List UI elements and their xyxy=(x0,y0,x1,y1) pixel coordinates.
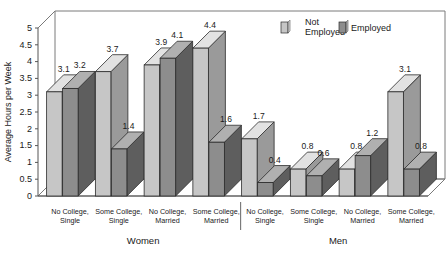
y-tick-label: 0.5 xyxy=(19,174,32,184)
y-axis: 00.511.522.533.544.55 xyxy=(19,23,38,201)
category-label: Single xyxy=(304,216,324,225)
bar-value-label: 3.9 xyxy=(155,37,167,47)
bar-value-label: 4.4 xyxy=(204,20,216,30)
y-tick-label: 4.5 xyxy=(19,40,32,50)
category-label: No College, xyxy=(246,207,284,216)
category-label: Some College, xyxy=(95,207,142,216)
category-label: No College, xyxy=(344,207,382,216)
bar-value-label: 0.6 xyxy=(318,148,330,158)
bar-employed xyxy=(63,71,96,196)
bar-value-label: 1.2 xyxy=(366,128,378,138)
bar-value-label: 0.8 xyxy=(302,141,314,151)
bars-layer xyxy=(47,31,437,196)
y-tick-label: 4 xyxy=(27,56,32,66)
legend-label: Not xyxy=(305,17,320,27)
chart-legend: NotEmployedEmployed xyxy=(281,17,391,37)
category-label: Married xyxy=(350,216,374,225)
bar-value-label: 1.6 xyxy=(220,114,232,124)
category-label: Single xyxy=(109,216,129,225)
category-label: Some College, xyxy=(193,207,240,216)
chart-container: 00.511.522.533.544.55 3.13.23.71.43.94.1… xyxy=(0,0,447,254)
category-label: Some College, xyxy=(388,207,435,216)
category-label: Married xyxy=(155,216,179,225)
bar-chart: 00.511.522.533.544.55 3.13.23.71.43.94.1… xyxy=(0,0,447,254)
y-tick-label: 3 xyxy=(27,90,32,100)
legend-swatch xyxy=(281,22,288,33)
y-tick-label: 2 xyxy=(27,124,32,134)
bar-value-label: 1.4 xyxy=(123,121,135,131)
y-axis-title-text: Average Hours per Week xyxy=(3,61,13,162)
bar-value-label: 1.7 xyxy=(253,111,265,121)
y-tick-label: 5 xyxy=(27,23,32,33)
legend-label: Employed xyxy=(351,23,391,33)
category-label: Single xyxy=(60,216,80,225)
bar-value-label: 3.1 xyxy=(58,64,70,74)
y-tick-label: 1 xyxy=(27,157,32,167)
group-label: Women xyxy=(127,235,160,246)
legend-item: Employed xyxy=(339,20,391,33)
category-label: Some College, xyxy=(290,207,337,216)
bar-value-label: 0.4 xyxy=(269,155,281,165)
category-label: Single xyxy=(255,216,275,225)
group-label: Men xyxy=(329,235,347,246)
category-labels-layer: No College,SingleSome College,SingleNo C… xyxy=(51,207,435,225)
legend-item: NotEmployed xyxy=(281,17,345,37)
bar-value-label: 0.8 xyxy=(350,141,362,151)
category-label: No College, xyxy=(149,207,187,216)
group-labels-layer: WomenMen xyxy=(127,235,348,246)
y-tick-label: 3.5 xyxy=(19,73,32,83)
legend-swatch xyxy=(339,22,346,33)
y-axis-title: Average Hours per Week xyxy=(3,61,13,162)
bar-employed xyxy=(160,41,193,196)
y-tick-label: 1.5 xyxy=(19,140,32,150)
y-tick-label: 2.5 xyxy=(19,107,32,117)
bar-value-label: 0.8 xyxy=(415,141,427,151)
y-tick-label: 0 xyxy=(27,191,32,201)
bar-value-label: 3.2 xyxy=(74,60,86,70)
bar-value-label: 3.7 xyxy=(107,44,119,54)
bar-value-label: 3.1 xyxy=(399,64,411,74)
category-label: Married xyxy=(204,216,228,225)
category-label: No College, xyxy=(51,207,89,216)
category-label: Married xyxy=(399,216,423,225)
bar-value-label: 4.1 xyxy=(171,30,183,40)
